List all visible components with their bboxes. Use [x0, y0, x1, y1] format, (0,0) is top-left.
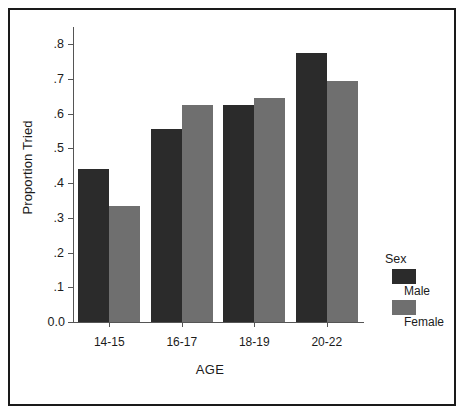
legend-label-female: Female	[404, 315, 444, 329]
y-axis-tick-label: .8	[54, 37, 64, 51]
y-axis-tick	[68, 114, 73, 115]
bar-female-16-17	[182, 105, 213, 322]
legend-label-male: Male	[404, 284, 430, 298]
y-axis-tick-label: .7	[54, 72, 64, 86]
x-axis-tick	[254, 322, 255, 327]
legend-entry: Female	[385, 300, 457, 331]
y-axis-tick	[68, 148, 73, 149]
y-axis-tick	[68, 322, 73, 323]
x-axis-group-label: 16-17	[166, 335, 197, 349]
y-axis-tick-label: .2	[54, 246, 64, 260]
plot-area: 0.0.1.2.3.4.5.6.7.814-1516-1718-1920-22	[73, 27, 363, 322]
y-axis-title: Proportion Tried	[20, 78, 35, 258]
y-axis-tick-label: .3	[54, 211, 64, 225]
legend-swatch-male	[392, 269, 416, 284]
x-axis-group-label: 14-15	[94, 335, 125, 349]
bar-chart-figure: Proportion Tried AGE 0.0.1.2.3.4.5.6.7.8…	[0, 0, 466, 415]
y-axis-tick	[68, 218, 73, 219]
bar-male-16-17	[151, 129, 182, 322]
y-axis-tick	[68, 183, 73, 184]
x-axis-tick	[327, 322, 328, 327]
x-axis-group-label: 20-22	[311, 335, 342, 349]
legend-entries: MaleFemale	[385, 269, 457, 331]
bar-female-18-19	[254, 98, 285, 322]
legend-swatch-female	[392, 300, 416, 315]
y-axis-tick-label: .6	[54, 107, 64, 121]
y-axis-tick-label: .4	[54, 176, 64, 190]
bar-male-18-19	[223, 105, 254, 322]
bar-female-14-15	[109, 206, 140, 322]
x-axis-tick	[109, 322, 110, 327]
bar-male-14-15	[78, 169, 109, 322]
legend-entry: Male	[385, 269, 457, 300]
legend-title: Sex	[385, 252, 457, 266]
y-axis-tick	[68, 253, 73, 254]
x-axis-tick	[182, 322, 183, 327]
y-axis-tick	[68, 287, 73, 288]
y-axis-tick	[68, 79, 73, 80]
legend: Sex MaleFemale	[385, 252, 457, 331]
bar-female-20-22	[327, 81, 358, 322]
x-axis-line	[73, 322, 364, 323]
y-axis-tick-label: .5	[54, 141, 64, 155]
y-axis-tick	[68, 44, 73, 45]
y-axis-tick-label: 0.0	[48, 315, 65, 329]
y-axis-tick-label: .1	[54, 280, 64, 294]
x-axis-title: AGE	[60, 362, 360, 377]
x-axis-group-label: 18-19	[239, 335, 270, 349]
bar-male-20-22	[296, 53, 327, 322]
